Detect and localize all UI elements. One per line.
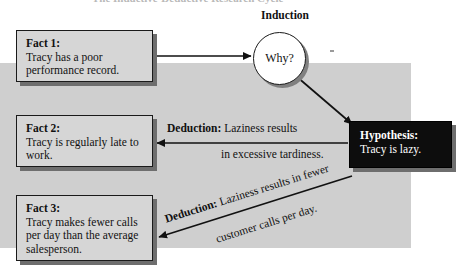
fact-3-box[interactable]: Fact 3: Tracy makes fewer calls per day …	[16, 195, 153, 261]
fact-2-box[interactable]: Fact 2: Tracy is regularly late to work.	[16, 115, 153, 167]
fact-1-box[interactable]: Fact 1: Tracy has a poor performance rec…	[16, 30, 153, 82]
deduction-1-keyword: Deduction:	[167, 122, 221, 134]
fact-2-heading: Fact 2:	[26, 122, 152, 136]
induction-label-text: Induction	[261, 9, 309, 21]
fact-3-heading: Fact 3:	[26, 202, 152, 216]
why-circle-text: Why?	[265, 51, 294, 66]
scan-artifact-speck	[330, 50, 334, 52]
deduction-1-line-1: Deduction: Laziness results	[167, 122, 297, 134]
fact-3-body: Tracy makes fewer calls per day than the…	[26, 216, 152, 257]
deduction-1-text-2: in excessive tardiness.	[221, 148, 324, 160]
fact-1-heading: Fact 1:	[26, 37, 152, 51]
induction-label: Induction	[247, 9, 323, 21]
deduction-1-line-2: in excessive tardiness.	[221, 148, 324, 160]
deduction-1-text-1: Laziness results	[221, 122, 297, 134]
diagram-canvas: The Inductive-Deductive Research Cycle I…	[0, 0, 457, 279]
fact-1-body: Tracy has a poor performance record.	[26, 51, 152, 78]
why-circle[interactable]: Why?	[253, 32, 306, 85]
fact-2-body: Tracy is regularly late to work.	[26, 136, 152, 163]
hypothesis-box[interactable]: Hypothesis: Tracy is lazy.	[349, 121, 452, 168]
arrow-why-to-hypothesis	[296, 76, 352, 124]
hypothesis-body: Tracy is lazy.	[360, 143, 451, 157]
hypothesis-heading: Hypothesis:	[360, 129, 451, 143]
